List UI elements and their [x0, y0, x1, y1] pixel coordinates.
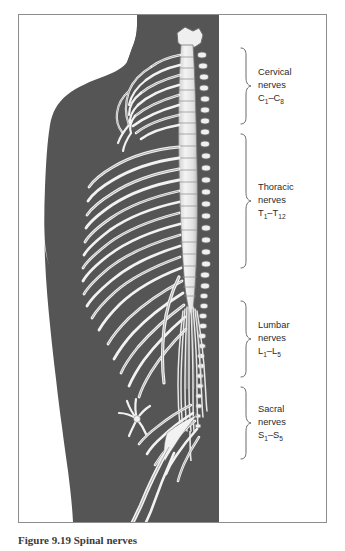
label-thoracic-line1: Thoracic	[258, 182, 294, 192]
spinal-nerves-figure: Cervical nerves C1–C8 Thoracic nerves T1…	[0, 0, 345, 551]
figure-caption: Figure 9.19 Spinal nerves	[18, 533, 327, 547]
hip-gap-notch	[43, 333, 50, 381]
lumbosacral-branch-node	[134, 416, 141, 423]
label-sacral-range: S1–S5	[258, 430, 283, 442]
brace-cervical	[241, 48, 251, 124]
label-cervical-line2: nerves	[258, 80, 286, 90]
figure-caption-area: Figure 9.19 Spinal nerves	[18, 533, 327, 551]
label-cervical-line1: Cervical	[258, 67, 292, 77]
brace-thoracic	[241, 134, 251, 268]
label-lumbar-line1: Lumbar	[258, 320, 290, 330]
head-profile	[127, 15, 171, 63]
label-thoracic-line2: nerves	[258, 195, 286, 205]
label-lumbar-line2: nerves	[258, 333, 286, 343]
label-sacral-line1: Sacral	[258, 404, 284, 414]
brace-sacral	[241, 387, 251, 459]
brace-lumbar	[241, 301, 251, 377]
label-sacral-line2: nerves	[258, 417, 286, 427]
region-labels: Cervical nerves C1–C8 Thoracic nerves T1…	[258, 67, 294, 442]
anatomy-illustration: Cervical nerves C1–C8 Thoracic nerves T1…	[19, 15, 326, 522]
label-thoracic-range: T1–T12	[258, 208, 286, 220]
label-lumbar-range: L1–L5	[258, 346, 281, 358]
label-braces	[241, 48, 251, 459]
label-cervical-range: C1–C8	[258, 93, 284, 105]
